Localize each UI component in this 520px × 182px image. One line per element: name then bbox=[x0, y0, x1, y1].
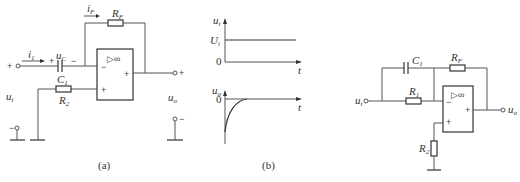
output-plus-sign: + bbox=[179, 68, 184, 78]
uc-label: uC bbox=[56, 49, 67, 63]
cap-minus-sign: − bbox=[71, 56, 76, 66]
opamp-a-noninv: + bbox=[101, 85, 106, 95]
caption-a: (a) bbox=[98, 159, 111, 172]
r2-label-c: R2 bbox=[418, 142, 430, 156]
if-arrow-icon bbox=[96, 14, 100, 18]
arrow-up-icon bbox=[223, 18, 227, 24]
resistor-r2-c bbox=[431, 141, 437, 156]
caption-b: (b) bbox=[262, 159, 275, 172]
input-plus-sign: + bbox=[7, 61, 12, 71]
opamp-a-out: + bbox=[124, 69, 129, 79]
arrow-up-icon bbox=[223, 90, 227, 96]
opamp-c-out: + bbox=[465, 105, 470, 115]
circuit-figure: + i1 + uC − C1 RF iF ▷∞ − + + + u bbox=[0, 0, 520, 182]
opamp-c-symbol: ▷∞ bbox=[451, 90, 464, 100]
opamp-a-symbol: ▷∞ bbox=[107, 54, 120, 64]
input-terminal bbox=[16, 64, 20, 68]
output-terminal-c bbox=[501, 108, 505, 112]
ui-label: ui bbox=[6, 90, 14, 104]
opamp-a-inv: − bbox=[101, 62, 106, 72]
input-minus-sign: − bbox=[9, 123, 14, 133]
cap-plus-sign: + bbox=[49, 56, 54, 66]
output-ground-terminal bbox=[173, 117, 177, 121]
input-terminal-c bbox=[364, 99, 368, 103]
rf-label: RF bbox=[111, 7, 124, 21]
figure-b-waveforms: ui Ui 0 t uo 0 t (b) bbox=[210, 14, 302, 172]
figure-a-differentiator: + i1 + uC − C1 RF iF ▷∞ − + + + u bbox=[6, 2, 184, 172]
ui-xlabel: t bbox=[298, 64, 302, 76]
figure-c-practical-differentiator: ui R1 C1 RF ▷∞ − + + uo R2 bbox=[355, 51, 518, 170]
i1-label: i1 bbox=[28, 48, 35, 62]
ui-origin: 0 bbox=[216, 55, 222, 67]
ui-label-c: ui bbox=[355, 94, 363, 108]
uo-decay-curve bbox=[225, 99, 247, 132]
if-label: iF bbox=[87, 2, 95, 16]
rf-label-c: RF bbox=[450, 51, 463, 65]
output-terminal bbox=[173, 71, 177, 75]
ui-level-label: Ui bbox=[210, 34, 220, 48]
r1-label: R1 bbox=[408, 85, 419, 99]
c1-label: C1 bbox=[57, 73, 68, 87]
r2-label: R2 bbox=[58, 94, 70, 108]
uo-origin: 0 bbox=[216, 93, 222, 105]
uo-label-c: uo bbox=[508, 103, 518, 117]
input-ground-terminal bbox=[15, 126, 19, 130]
opamp-c-inv: − bbox=[446, 97, 451, 107]
ui-ylabel: ui bbox=[213, 14, 221, 28]
uo-xlabel: t bbox=[298, 101, 302, 113]
output-minus-sign: − bbox=[179, 114, 184, 124]
c1-label-c: C1 bbox=[412, 54, 423, 68]
resistor-rf-c bbox=[450, 65, 465, 71]
i1-arrow-icon bbox=[40, 59, 45, 63]
uo-label: uo bbox=[168, 91, 178, 105]
opamp-c-noninv: + bbox=[446, 117, 451, 127]
